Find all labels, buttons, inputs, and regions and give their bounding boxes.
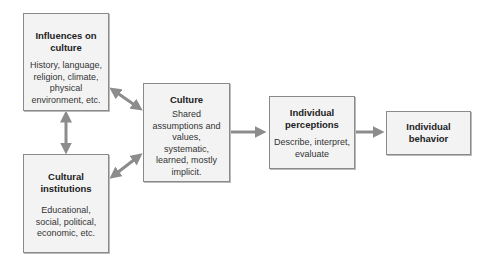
box-body: History, language, religion, climate, ph…	[24, 60, 108, 106]
box-title: Individual behavior	[387, 121, 470, 145]
box-body: Describe, interpret, evaluate	[270, 137, 354, 160]
box-title: Cultural institutions	[24, 171, 108, 195]
box-influences-on-culture: Influences on culture History, language,…	[23, 13, 109, 111]
box-title: Influences on culture	[24, 30, 108, 54]
box-individual-behavior: Individual behavior	[386, 111, 471, 155]
box-title: Culture	[144, 94, 229, 106]
box-culture: Culture Shared assumptions and values, s…	[143, 83, 230, 182]
arrow-influences-culture	[113, 90, 139, 108]
box-body: Educational, social, political, economic…	[24, 205, 108, 240]
box-individual-perceptions: Individual perceptions Describe, interpr…	[269, 96, 355, 169]
arrow-institutions-culture	[113, 156, 139, 176]
box-body: Shared assumptions and values, systemati…	[144, 109, 229, 178]
box-cultural-institutions: Cultural institutions Educational, socia…	[23, 154, 109, 253]
box-title: Individual perceptions	[270, 107, 354, 131]
